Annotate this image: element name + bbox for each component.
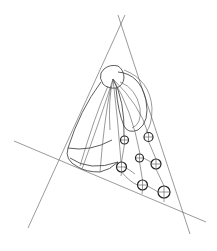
circle-nodes [117,133,171,199]
circle-node [138,180,148,190]
circle-node [136,154,144,162]
construction-lines [14,15,206,234]
circle-node [144,133,153,142]
circle-node [121,136,129,144]
left-construction-line [28,15,125,228]
right-construction-line [118,15,190,234]
apex-cap [100,65,124,88]
diagram-canvas [0,0,217,251]
perspective-drawing [0,0,217,251]
right-curved-surface [109,70,152,162]
circle-node [117,162,127,172]
circle-node [151,159,161,169]
base-construction-line [14,141,206,222]
circle-node [158,186,170,198]
